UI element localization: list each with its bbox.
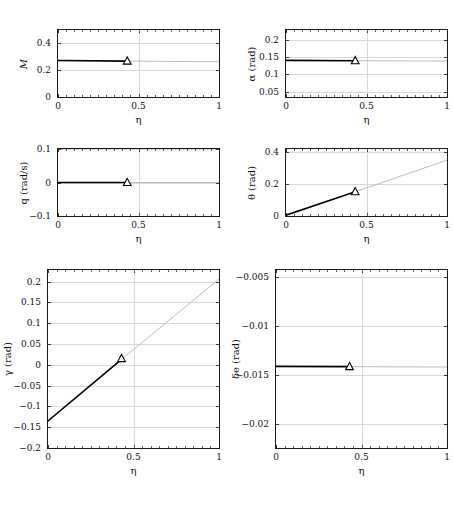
x-axis-minor-tick	[327, 446, 328, 448]
x-axis-minor-tick	[404, 446, 405, 448]
x-axis-minor-tick	[285, 270, 286, 272]
x-axis-minor-tick	[336, 270, 337, 272]
x-axis-minor-tick	[370, 270, 371, 272]
y-axis-tick-label: −0.01	[241, 321, 269, 331]
x-axis-minor-tick	[310, 270, 311, 272]
x-axis-minor-tick	[302, 270, 303, 272]
y-axis-tick	[444, 326, 447, 327]
x-axis-tick-label: 0	[273, 452, 279, 462]
x-axis-minor-tick	[438, 446, 439, 448]
x-axis-minor-tick	[370, 446, 371, 448]
x-axis-minor-tick	[293, 446, 294, 448]
x-axis-minor-tick	[387, 270, 388, 272]
plot-area-bottom-right	[275, 269, 448, 449]
y-axis-tick	[276, 424, 279, 425]
x-axis-minor-tick	[379, 270, 380, 272]
y-axis-label-bottom-right: δe (rad)	[230, 339, 241, 379]
x-axis-minor-tick	[379, 446, 380, 448]
y-axis-tick-label: −0.015	[236, 370, 269, 380]
x-axis-tick-label: 0.5	[354, 452, 368, 462]
x-axis-label-bottom-right: η	[359, 465, 365, 476]
x-axis-minor-tick	[319, 446, 320, 448]
x-axis-minor-tick	[344, 270, 345, 272]
x-axis-minor-tick	[438, 270, 439, 272]
x-axis-minor-tick	[310, 446, 311, 448]
y-axis-tick	[444, 375, 447, 376]
x-axis-tick	[276, 445, 277, 448]
x-axis-minor-tick	[387, 446, 388, 448]
x-axis-tick-label: 1	[444, 452, 450, 462]
x-axis-minor-tick	[430, 446, 431, 448]
x-axis-minor-tick	[336, 446, 337, 448]
data-point-marker	[346, 362, 354, 369]
x-axis-minor-tick	[285, 446, 286, 448]
x-axis-tick	[276, 270, 277, 273]
x-axis-tick	[447, 445, 448, 448]
x-axis-minor-tick	[353, 446, 354, 448]
y-axis-tick-label: −0.02	[241, 419, 269, 429]
x-axis-minor-tick	[302, 446, 303, 448]
y-axis-tick	[276, 326, 279, 327]
x-axis-minor-tick	[327, 270, 328, 272]
x-axis-minor-tick	[396, 446, 397, 448]
figure-canvas: 00.20.400.51ηM0.050.10.150.200.51ηα (rad…	[0, 0, 454, 519]
x-axis-minor-tick	[430, 270, 431, 272]
y-axis-tick	[444, 424, 447, 425]
y-axis-tick	[276, 277, 279, 278]
y-axis-tick-label: −0.005	[236, 272, 269, 282]
x-axis-minor-tick	[362, 446, 363, 448]
x-axis-minor-tick	[421, 270, 422, 272]
x-axis-minor-tick	[404, 270, 405, 272]
x-axis-minor-tick	[344, 446, 345, 448]
x-axis-minor-tick	[353, 270, 354, 272]
y-axis-tick	[444, 277, 447, 278]
x-axis-minor-tick	[362, 270, 363, 272]
subplot-bottom-right: −0.02−0.015−0.01−0.00500.51ηδe (rad)	[0, 0, 454, 519]
y-axis-tick	[276, 375, 279, 376]
gridline-vertical	[362, 270, 363, 448]
x-axis-minor-tick	[319, 270, 320, 272]
x-axis-minor-tick	[421, 446, 422, 448]
x-axis-minor-tick	[413, 446, 414, 448]
x-axis-minor-tick	[293, 270, 294, 272]
x-axis-tick	[447, 270, 448, 273]
x-axis-minor-tick	[396, 270, 397, 272]
x-axis-minor-tick	[413, 270, 414, 272]
